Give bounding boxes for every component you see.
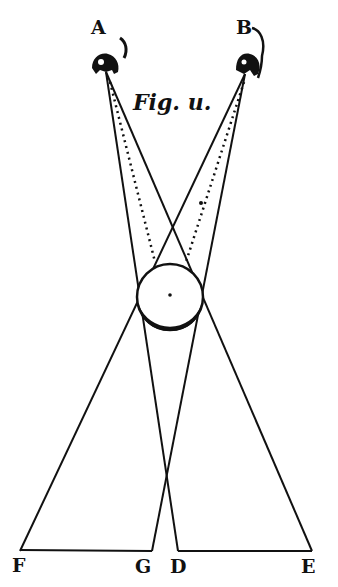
ray-b-to-f [20,74,245,551]
label-e: E [301,555,315,577]
label-d: D [170,555,186,577]
base-lines [20,550,312,551]
optics-diagram: A B F G D E Fig. u. [0,0,338,587]
label-f: F [12,554,26,576]
eye-icon-a [92,38,126,74]
label-b: B [236,16,252,38]
figure-caption: Fig. u. [132,89,211,115]
label-a: A [90,16,106,38]
segment-f-g [20,550,152,551]
label-g: G [135,555,151,577]
sphere [137,264,203,331]
ray-speck [199,201,203,205]
ray-a-to-e [106,72,312,551]
